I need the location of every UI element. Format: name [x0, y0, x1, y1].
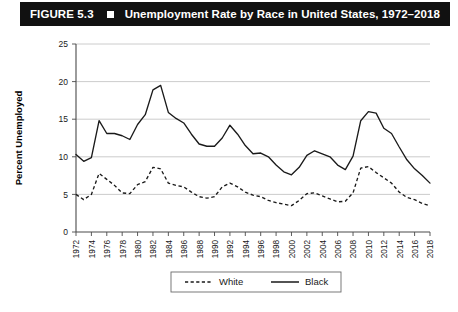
data-series-group [76, 85, 430, 205]
legend-label-black: Black [305, 276, 328, 287]
x-tick-label: 2014 [396, 240, 405, 259]
x-tick-label: 1984 [165, 240, 174, 259]
x-tick-label: 2000 [288, 240, 297, 259]
y-axis-ticks-group: 0510152025 [59, 39, 76, 237]
chart-legend: WhiteBlack [171, 272, 341, 292]
x-tick-label: 1978 [119, 240, 128, 259]
figure-title-bar: FIGURE 5.3 Unemployment Rate by Race in … [20, 2, 450, 26]
series-line-black [76, 85, 430, 183]
white-square-icon [107, 11, 114, 18]
y-tick-label: 0 [63, 227, 68, 237]
x-tick-label: 2010 [365, 240, 374, 259]
x-tick-label: 2012 [380, 240, 389, 259]
x-axis-ticks-group: 1972197419761978198019821984198619881990… [72, 232, 435, 258]
unemployment-line-chart: 0510152025 19721974197619781980198219841… [0, 26, 458, 312]
y-tick-label: 10 [59, 152, 69, 162]
x-tick-label: 1996 [257, 240, 266, 259]
y-tick-label: 25 [59, 39, 69, 49]
x-tick-label: 1986 [180, 240, 189, 259]
x-tick-label: 2008 [349, 240, 358, 259]
chart-plot-area: 0510152025 19721974197619781980198219841… [0, 26, 458, 312]
x-tick-label: 1992 [226, 240, 235, 259]
x-tick-label: 1982 [149, 240, 158, 259]
x-tick-label: 1990 [211, 240, 220, 259]
figure-title: Unemployment Rate by Race in United Stat… [125, 8, 440, 20]
figure-container: FIGURE 5.3 Unemployment Rate by Race in … [0, 0, 458, 312]
x-tick-label: 2006 [334, 240, 343, 259]
y-tick-label: 15 [59, 114, 69, 124]
x-tick-label: 1988 [196, 240, 205, 259]
gridlines-group [76, 44, 430, 194]
x-tick-label: 2016 [411, 240, 420, 259]
x-tick-label: 1994 [242, 240, 251, 259]
figure-number: FIGURE 5.3 [30, 8, 94, 20]
x-tick-label: 2018 [426, 240, 435, 259]
x-tick-label: 1980 [134, 240, 143, 259]
x-tick-label: 1976 [103, 240, 112, 259]
x-tick-label: 2004 [319, 240, 328, 259]
legend-label-white: White [219, 276, 243, 287]
y-tick-label: 20 [59, 77, 69, 87]
y-tick-label: 5 [63, 190, 68, 200]
x-tick-label: 1974 [88, 240, 97, 259]
series-line-white [76, 167, 430, 206]
y-axis-title: Percent Unemployed [13, 91, 24, 186]
x-tick-label: 1972 [72, 240, 81, 259]
x-tick-label: 2002 [303, 240, 312, 259]
x-tick-label: 1998 [272, 240, 281, 259]
